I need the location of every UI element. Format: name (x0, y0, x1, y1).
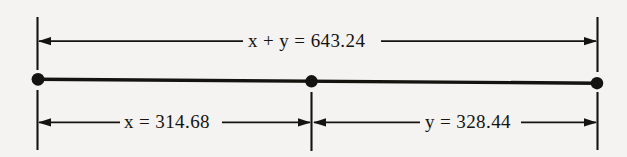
point-marker-center (305, 75, 317, 87)
dimension-label-total: x + y = 643.24 (248, 31, 365, 50)
diagram-canvas (0, 0, 627, 157)
point-marker-right (591, 77, 603, 89)
dimension-label-right-segment: y = 328.44 (425, 112, 511, 131)
dimension-label-left-segment: x = 314.68 (124, 112, 210, 131)
point-marker-left (32, 73, 45, 86)
dimension-diagram: x + y = 643.24 x = 314.68 y = 328.44 (0, 0, 627, 157)
